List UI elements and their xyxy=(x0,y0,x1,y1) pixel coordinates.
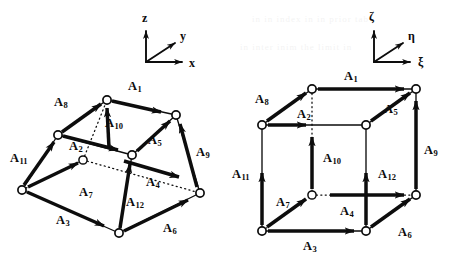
edge-label-A5: A5 xyxy=(384,103,398,117)
edge-label-A4: A4 xyxy=(340,205,354,219)
xi-eta-zeta-triad xyxy=(374,31,410,62)
node xyxy=(196,189,204,197)
edge-label-subscript: 10 xyxy=(333,156,342,166)
edge-label-A6: A6 xyxy=(398,226,412,240)
edge-label-subscript: 12 xyxy=(388,172,397,182)
node-hidden xyxy=(79,156,87,164)
edge-label-base: A xyxy=(398,225,407,239)
edge-label-base: A xyxy=(146,175,155,189)
edge-label-base: A xyxy=(148,133,157,147)
axis-label-y: y xyxy=(180,30,186,42)
node xyxy=(362,227,370,235)
edge-label-subscript: 3 xyxy=(66,218,70,228)
edge-label-base: A xyxy=(323,151,332,165)
node xyxy=(54,131,62,139)
vector-A9 xyxy=(180,124,197,187)
axis-label-x: x xyxy=(189,57,195,69)
edge-label-subscript: 4 xyxy=(350,209,354,219)
edge-label-subscript: 3 xyxy=(313,244,317,254)
edge-label-A9: A9 xyxy=(424,144,438,158)
edge-label-subscript: 9 xyxy=(206,150,210,160)
edge-label-A10: A10 xyxy=(105,117,123,131)
edge-label-A4: A4 xyxy=(146,176,160,190)
edge-label-A8: A8 xyxy=(255,93,269,107)
edge-label-A7: A7 xyxy=(79,186,93,200)
edge-label-A7: A7 xyxy=(276,196,290,210)
node xyxy=(172,111,180,119)
left-distorted-hexahedron xyxy=(18,31,204,237)
edge-label-subscript: 8 xyxy=(265,97,269,107)
edge-label-subscript: 1 xyxy=(354,74,358,84)
axis-label-ξ: ξ xyxy=(418,56,423,68)
edge-label-base: A xyxy=(276,195,285,209)
edge-label-subscript: 7 xyxy=(89,190,93,200)
edge-label-base: A xyxy=(10,151,19,165)
edge-label-base: A xyxy=(54,95,63,109)
edge-label-subscript: 5 xyxy=(158,138,162,148)
edge-label-base: A xyxy=(424,143,433,157)
node xyxy=(103,96,111,104)
edge-label-A1: A1 xyxy=(128,80,142,94)
axis-y xyxy=(146,43,175,62)
vector-A8 xyxy=(62,104,101,132)
edge-label-subscript: 5 xyxy=(394,107,398,117)
edge-label-base: A xyxy=(297,107,306,121)
edge-label-base: A xyxy=(378,167,387,181)
edge-label-A2: A2 xyxy=(69,140,83,154)
node xyxy=(258,227,266,235)
edge-label-subscript: 4 xyxy=(156,180,160,190)
edge-label-A12: A12 xyxy=(378,168,396,182)
edge-label-base: A xyxy=(344,69,353,83)
edge-label-subscript: 6 xyxy=(173,226,177,236)
edge-label-base: A xyxy=(56,213,65,227)
edge-label-base: A xyxy=(69,139,78,153)
edge-label-A1: A1 xyxy=(344,70,358,84)
node xyxy=(115,229,123,237)
edge-label-base: A xyxy=(163,221,172,235)
edge-label-subscript: 11 xyxy=(242,172,250,182)
edge-label-subscript: 12 xyxy=(136,200,145,210)
edge-label-A3: A3 xyxy=(303,240,317,254)
edge-label-A5: A5 xyxy=(148,134,162,148)
edge-label-A2: A2 xyxy=(297,108,311,122)
edge-label-A10: A10 xyxy=(323,152,341,166)
node xyxy=(258,121,266,129)
edge-label-base: A xyxy=(79,185,88,199)
edge-label-base: A xyxy=(384,102,393,116)
node xyxy=(18,186,26,194)
vector-A6 xyxy=(371,199,410,227)
node-hidden xyxy=(308,191,316,199)
edge-label-A11: A11 xyxy=(10,152,28,166)
vector-A1 xyxy=(112,101,161,112)
edge-label-subscript: 10 xyxy=(115,121,124,131)
node xyxy=(128,151,136,159)
edge-label-A12: A12 xyxy=(126,196,144,210)
edge-label-A6: A6 xyxy=(163,222,177,236)
edge-label-A3: A3 xyxy=(56,214,70,228)
node xyxy=(412,85,420,93)
edge-label-base: A xyxy=(105,116,114,130)
axis-eta xyxy=(374,43,403,62)
edge-label-A8: A8 xyxy=(54,96,68,110)
node xyxy=(362,121,370,129)
edge-label-base: A xyxy=(128,79,137,93)
axis-label-η: η xyxy=(408,30,415,42)
edge-label-subscript: 2 xyxy=(79,144,83,154)
edge-label-base: A xyxy=(126,195,135,209)
axis-label-z: z xyxy=(142,12,147,24)
edge-label-subscript: 9 xyxy=(434,148,438,158)
edge-label-base: A xyxy=(196,145,205,159)
edge-label-A9: A9 xyxy=(196,146,210,160)
edge-label-base: A xyxy=(340,204,349,218)
axis-label-ζ: ζ xyxy=(369,11,374,23)
edge-label-subscript: 11 xyxy=(20,156,28,166)
edge-label-subscript: 6 xyxy=(408,230,412,240)
xyz-triad xyxy=(146,31,182,62)
edge-label-A11: A11 xyxy=(232,168,250,182)
edge-label-base: A xyxy=(255,92,264,106)
edge-label-base: A xyxy=(232,167,241,181)
edge-label-subscript: 2 xyxy=(307,112,311,122)
node xyxy=(412,191,420,199)
edge-label-subscript: 7 xyxy=(286,200,290,210)
node xyxy=(308,85,316,93)
